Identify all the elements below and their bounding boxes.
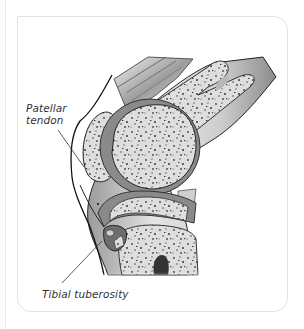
- label-line: Patellar: [26, 102, 76, 114]
- page-margin-rule: [5, 0, 6, 329]
- patellar-tendon-label: Patellar tendon: [26, 102, 76, 126]
- figure-card: Patellar tendon Tibial tuberosity: [17, 16, 288, 312]
- tibial-tuberosity-label: Tibial tuberosity: [42, 288, 129, 300]
- femoral-condyle: [112, 105, 196, 189]
- knee-anatomy-illustration: [18, 17, 288, 312]
- label-line: tendon: [26, 114, 76, 126]
